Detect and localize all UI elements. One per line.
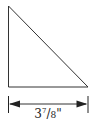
dimension-label: 37/8" xyxy=(0,107,96,121)
right-triangle xyxy=(9,6,89,87)
